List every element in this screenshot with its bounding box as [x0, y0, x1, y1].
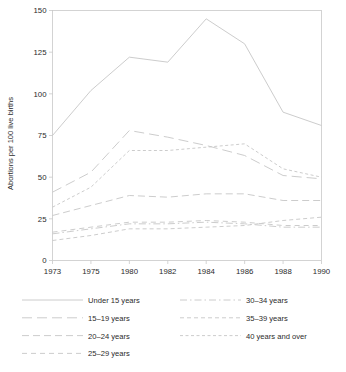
x-tick-label: 1988 — [274, 267, 291, 276]
abortion-rate-line-chart: Abortions per 100 live births 0255075100… — [0, 0, 346, 372]
legend-label: 20–24 years — [88, 332, 130, 341]
legend-label: Under 15 years — [88, 296, 140, 305]
y-tick-label: 50 — [38, 173, 47, 182]
legend-label: 25–29 years — [88, 349, 130, 358]
legend-label: 35–39 years — [246, 314, 288, 323]
y-tick-label: 125 — [33, 48, 47, 57]
x-tick-label: 1973 — [44, 267, 61, 276]
y-tick-label: 0 — [42, 256, 47, 265]
x-tick-label: 1986 — [236, 267, 253, 276]
x-tick-label: 1980 — [121, 267, 139, 276]
legend-label: 30–34 years — [246, 296, 288, 305]
x-tick-label: 1982 — [159, 267, 176, 276]
y-tick-label: 75 — [38, 131, 47, 140]
legend-label: 40 years and over — [246, 332, 307, 341]
x-tick-label: 1990 — [313, 267, 331, 276]
x-tick-label: 1975 — [82, 267, 100, 276]
x-tick-label: 1984 — [198, 267, 216, 276]
y-tick-label: 150 — [33, 6, 47, 15]
y-axis-title: Abortions per 100 live births — [6, 97, 15, 190]
y-tick-label: 25 — [38, 215, 47, 224]
legend-label: 15–19 years — [88, 314, 130, 323]
y-tick-label: 100 — [33, 90, 47, 99]
